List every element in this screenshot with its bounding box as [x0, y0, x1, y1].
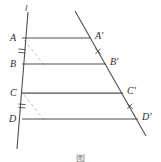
point-label-C-prime: C'	[127, 86, 136, 96]
tick-right-AB-cross	[95, 49, 100, 54]
point-label-B: B	[10, 59, 16, 69]
right-transversal-line	[75, 11, 146, 136]
point-label-B-prime: B'	[110, 57, 118, 67]
point-label-A-prime: A'	[95, 31, 103, 41]
figure-canvas	[0, 0, 161, 162]
point-label-C: C	[10, 88, 17, 98]
transversal-line-label-l: l	[25, 4, 28, 13]
point-label-D-prime: D'	[142, 112, 151, 122]
left-transversal-line	[17, 12, 28, 149]
tick-left-CD-double-hash	[19, 104, 26, 108]
dashed-line-lower	[24, 95, 45, 121]
parallel-lines-group	[22, 38, 138, 119]
geometry-figure: l A B C D A' B' C' D' 图	[0, 0, 161, 162]
dashed-line-upper	[24, 40, 45, 66]
figure-caption: 图	[0, 154, 161, 162]
transversal-lines-group	[17, 11, 146, 149]
point-label-A: A	[10, 33, 16, 43]
point-label-D: D	[9, 114, 16, 124]
dashed-auxiliary-lines	[24, 40, 45, 121]
